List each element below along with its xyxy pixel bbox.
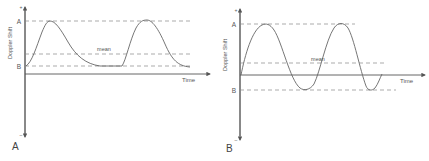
doppler-diagram: A B + – mean Time Doppler Shift A A B + … <box>0 0 429 161</box>
y-axis-label: Doppler Shift <box>222 39 228 71</box>
panel-b: A B + – mean Time Doppler Shift B <box>222 7 425 154</box>
panel-a: A B + – mean Time Doppler Shift A <box>7 4 210 152</box>
y-top-sign: + <box>20 4 23 10</box>
panel-letter-b: B <box>226 143 233 154</box>
level-b-label: B <box>232 87 236 94</box>
y-bottom-sign: – <box>20 132 23 138</box>
y-top-sign: + <box>235 7 238 13</box>
y-axis-label: Doppler Shift <box>7 27 13 59</box>
mean-label: mean <box>311 56 325 62</box>
x-axis-label: Time <box>182 77 196 83</box>
level-a-label: A <box>232 21 237 28</box>
panel-letter-a: A <box>12 141 19 152</box>
y-bottom-sign: – <box>235 137 238 143</box>
level-b-label: B <box>17 63 21 70</box>
waveform-curve <box>26 20 190 67</box>
level-a-label: A <box>17 18 22 25</box>
mean-label: mean <box>97 46 111 52</box>
x-axis-label: Time <box>400 78 414 84</box>
